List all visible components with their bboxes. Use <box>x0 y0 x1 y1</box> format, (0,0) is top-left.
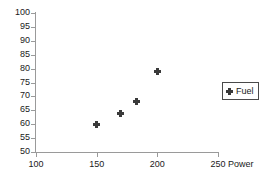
data-point <box>93 121 100 128</box>
scatter-chart: 50556065707580859095100 100150200250 Pow… <box>0 0 278 188</box>
legend-diamond-icon <box>226 88 233 95</box>
legend-item-label: Fuel <box>236 87 254 96</box>
x-axis-line <box>35 152 219 153</box>
data-point <box>154 68 161 75</box>
x-tick <box>36 152 37 157</box>
plot-area <box>36 13 218 152</box>
x-tick-label: 150 <box>77 160 117 169</box>
data-point <box>117 110 124 117</box>
x-tick <box>218 152 219 157</box>
y-tick-label: 95 <box>4 22 30 31</box>
x-tick-label: 200 <box>137 160 177 169</box>
y-tick-label: 70 <box>4 91 30 100</box>
y-tick-label: 55 <box>4 133 30 142</box>
y-tick-label: 85 <box>4 50 30 59</box>
x-tick <box>97 152 98 157</box>
y-tick-label: 50 <box>4 147 30 156</box>
x-tick <box>157 152 158 157</box>
data-point <box>133 98 140 105</box>
x-tick-label: 100 <box>16 160 56 169</box>
y-tick-label: 75 <box>4 78 30 87</box>
y-tick-label: 100 <box>4 8 30 17</box>
x-axis-title: Power <box>228 160 254 169</box>
y-tick-label: 60 <box>4 119 30 128</box>
y-tick-label: 65 <box>4 105 30 114</box>
chart-legend: Fuel <box>222 82 259 100</box>
y-tick-label: 90 <box>4 36 30 45</box>
y-tick-label: 80 <box>4 64 30 73</box>
